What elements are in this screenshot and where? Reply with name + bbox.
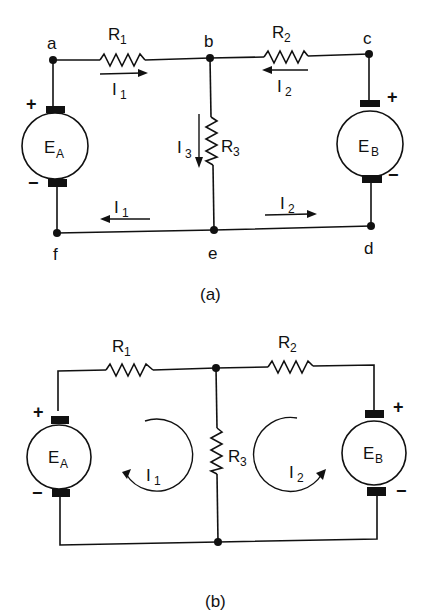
node-b bbox=[206, 54, 214, 62]
node-a bbox=[49, 56, 57, 64]
svg-text:1: 1 bbox=[124, 345, 131, 359]
svg-text:2: 2 bbox=[288, 202, 295, 216]
arrow-i1-top bbox=[100, 69, 148, 77]
label-loop-i2: I 2 bbox=[289, 463, 304, 485]
svg-text:B: B bbox=[371, 145, 379, 159]
svg-text:3: 3 bbox=[185, 147, 192, 161]
node-d bbox=[367, 222, 375, 230]
svg-text:2: 2 bbox=[297, 471, 304, 485]
arrow-i3 bbox=[195, 114, 203, 168]
label-r3-a: R 3 bbox=[221, 137, 240, 159]
label-i1-bottom: I 1 bbox=[114, 198, 129, 220]
junction-top-b bbox=[212, 364, 220, 372]
svg-text:1: 1 bbox=[120, 33, 127, 47]
svg-text:R: R bbox=[278, 333, 290, 352]
resistor-r1-a bbox=[100, 54, 145, 66]
svg-text:3: 3 bbox=[240, 455, 247, 469]
label-node-f: f bbox=[53, 245, 58, 264]
svg-text:R: R bbox=[272, 23, 284, 42]
wire-b-right-top bbox=[313, 365, 374, 410]
svg-text:R: R bbox=[108, 25, 120, 44]
label-node-b: b bbox=[204, 32, 213, 51]
resistor-r3-a bbox=[206, 117, 217, 165]
svg-text:I: I bbox=[146, 466, 151, 485]
wire-b-r2 bbox=[210, 57, 264, 58]
node-e bbox=[210, 226, 218, 234]
svg-text:2: 2 bbox=[290, 341, 297, 355]
svg-text:E: E bbox=[363, 444, 374, 463]
caption-a: (a) bbox=[200, 285, 221, 304]
svg-text:I: I bbox=[277, 77, 282, 96]
resistor-r2-b bbox=[268, 361, 313, 373]
wire-r1-junction bbox=[153, 368, 216, 370]
wire-b-left-top bbox=[58, 370, 106, 411]
wire-r1-b bbox=[145, 58, 210, 60]
wire-junction-r2 bbox=[216, 367, 268, 368]
svg-text:E: E bbox=[44, 138, 55, 157]
node-c bbox=[365, 50, 373, 58]
wire-junction-r3 bbox=[216, 368, 217, 428]
label-i3: I 3 bbox=[177, 138, 192, 161]
label-i2-top: I 2 bbox=[277, 77, 292, 99]
svg-text:E: E bbox=[48, 448, 59, 467]
label-node-d: d bbox=[364, 239, 373, 258]
svg-text:A: A bbox=[60, 457, 68, 471]
svg-text:3: 3 bbox=[233, 145, 240, 159]
wire-r2-c bbox=[308, 54, 369, 56]
figure-a: a b c d e f R 1 R 2 R 3 E A + − E B + − bbox=[22, 23, 403, 304]
svg-text:I: I bbox=[177, 138, 182, 157]
label-r1-b: R 1 bbox=[112, 337, 131, 359]
svg-text:A: A bbox=[56, 147, 64, 161]
svg-text:I: I bbox=[280, 194, 285, 213]
circuit-figure: a b c d e f R 1 R 2 R 3 E A + − E B + − bbox=[0, 0, 425, 611]
label-r2-a: R 2 bbox=[272, 23, 291, 45]
wire-b-r3 bbox=[210, 58, 211, 117]
svg-text:+: + bbox=[26, 94, 37, 114]
svg-text:+: + bbox=[33, 402, 44, 422]
svg-text:−: − bbox=[32, 483, 43, 503]
svg-text:R: R bbox=[112, 337, 124, 356]
svg-text:R: R bbox=[221, 137, 233, 156]
svg-text:−: − bbox=[28, 173, 39, 193]
svg-text:−: − bbox=[388, 165, 399, 185]
figure-b: R 1 R 2 R 3 E A + − E B + − I 1 I 2 bbox=[27, 333, 407, 611]
label-i1-top: I 1 bbox=[112, 80, 127, 102]
svg-text:−: − bbox=[396, 481, 407, 501]
resistor-r2-a bbox=[264, 51, 308, 63]
svg-text:B: B bbox=[375, 452, 383, 466]
label-node-e: e bbox=[208, 244, 217, 263]
svg-text:2: 2 bbox=[284, 31, 291, 45]
svg-text:R: R bbox=[228, 447, 240, 466]
label-r1-a: R 1 bbox=[108, 25, 127, 47]
svg-text:1: 1 bbox=[154, 474, 161, 488]
svg-text:+: + bbox=[387, 87, 398, 107]
arrow-i2-top bbox=[262, 66, 308, 74]
label-r3-b: R 3 bbox=[228, 447, 247, 469]
svg-text:E: E bbox=[358, 137, 369, 156]
svg-text:I: I bbox=[114, 198, 119, 217]
resistor-r3-b bbox=[211, 428, 222, 474]
wire-r3-e bbox=[213, 165, 214, 230]
node-f bbox=[53, 229, 61, 237]
wire-r3-bottom bbox=[217, 474, 218, 542]
label-loop-i1: I 1 bbox=[146, 466, 161, 488]
resistor-r1-b bbox=[106, 364, 153, 376]
label-r2-b: R 2 bbox=[278, 333, 297, 355]
svg-text:+: + bbox=[393, 397, 404, 417]
label-i2-bottom: I 2 bbox=[280, 194, 295, 216]
svg-text:I: I bbox=[289, 463, 294, 482]
caption-b: (b) bbox=[205, 592, 226, 611]
svg-text:2: 2 bbox=[285, 85, 292, 99]
svg-text:1: 1 bbox=[120, 88, 127, 102]
svg-text:1: 1 bbox=[122, 206, 129, 220]
junction-bottom-b bbox=[214, 538, 222, 546]
label-node-c: c bbox=[363, 29, 372, 48]
label-node-a: a bbox=[47, 34, 57, 53]
svg-text:I: I bbox=[112, 80, 117, 99]
